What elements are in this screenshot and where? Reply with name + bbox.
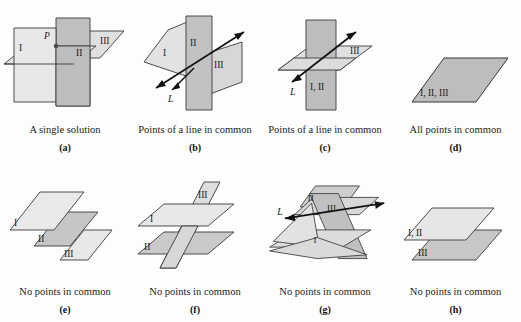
plane-label-III: III <box>214 60 224 70</box>
panel-g: L I II III No points in common (g) <box>260 168 390 320</box>
panel-b-caption: Points of a line in common <box>130 124 260 136</box>
panel-c-letter: (c) <box>260 142 390 153</box>
panel-b: L I II III Points of a line in common (b… <box>130 6 260 158</box>
plane-label-III: III <box>64 249 74 259</box>
panel-c-caption: Points of a line in common <box>260 124 390 136</box>
panel-g-letter: (g) <box>260 304 390 315</box>
plane-label-I: I <box>314 235 317 245</box>
intersection-point-P <box>54 44 58 48</box>
panel-g-diagram: L I II III <box>260 168 390 288</box>
plane-label-III: III <box>327 203 336 213</box>
panel-d-diagram: I, II, III <box>390 6 521 126</box>
line-label-L: L <box>167 93 174 104</box>
line-label-L: L <box>276 206 282 217</box>
panel-c-diagram: L I, II III <box>260 6 390 126</box>
panel-f-letter: (f) <box>130 304 260 315</box>
panel-h-diagram: I, II III <box>390 168 521 288</box>
panel-h-letter: (h) <box>390 304 521 315</box>
plane-label-III: III <box>100 36 110 46</box>
panel-e: I II III No points in common (e) <box>0 168 130 320</box>
panel-f-caption: No points in common <box>130 286 260 298</box>
plane-shape-III-front <box>278 58 356 70</box>
panel-a-diagram: P I II III <box>0 6 130 126</box>
panel-c: L I, II III Points of a line in common (… <box>260 6 390 158</box>
panel-f: I II III No points in common (f) <box>130 168 260 320</box>
plane-shape-II <box>186 16 212 110</box>
plane-label-II: II <box>38 234 44 244</box>
plane-label-II: II <box>190 38 196 48</box>
plane-label-II: II <box>308 193 314 203</box>
plane-label-I: I <box>163 48 166 58</box>
plane-label-I: I <box>14 218 17 228</box>
panel-h: I, II III No points in common (h) <box>390 168 521 320</box>
panel-d-caption: All points in common <box>390 124 521 136</box>
panel-e-caption: No points in common <box>0 286 130 298</box>
plane-label-II: II <box>144 242 150 252</box>
panel-d-letter: (d) <box>390 142 521 153</box>
plane-label-III: III <box>350 46 360 56</box>
plane-label-I: I <box>19 43 22 53</box>
plane-label-I-II: I, II <box>310 82 324 92</box>
plane-shape-II-front <box>56 46 90 106</box>
panel-a-letter: (a) <box>0 142 130 153</box>
three-plane-intersection-figure: P I II III A single solution (a) <box>0 0 521 322</box>
panel-e-diagram: I II III <box>0 168 130 288</box>
plane-label-I: I <box>150 214 153 224</box>
line-label-L: L <box>289 86 296 97</box>
panel-e-letter: (e) <box>0 304 130 315</box>
plane-label-I-II: I, II <box>408 228 422 238</box>
panel-a-caption: A single solution <box>0 124 130 136</box>
plane-label-III: III <box>418 248 428 258</box>
panel-b-letter: (b) <box>130 142 260 153</box>
plane-label-III: III <box>198 190 208 200</box>
panel-a: P I II III A single solution (a) <box>0 6 130 158</box>
plane-label-I-II-III: I, II, III <box>420 88 448 98</box>
panel-g-caption: No points in common <box>260 286 390 298</box>
panel-h-caption: No points in common <box>390 286 521 298</box>
plane-label-II: II <box>76 48 82 58</box>
panel-d: I, II, III All points in common (d) <box>390 6 521 158</box>
point-label-P: P <box>43 31 50 41</box>
panel-b-diagram: L I II III <box>130 6 260 126</box>
panel-f-diagram: I II III <box>130 168 260 288</box>
